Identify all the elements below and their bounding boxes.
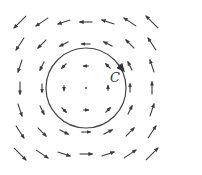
field-arrow: [58, 152, 71, 156]
field-arrow: [126, 128, 135, 137]
field-arrow: [148, 126, 156, 138]
field-arrow: [18, 104, 22, 117]
field-arrow: [102, 152, 115, 156]
field-arrow: [62, 108, 67, 113]
field-arrow: [40, 106, 44, 115]
vector-field-diagram: C: [0, 0, 202, 175]
field-arrow: [36, 150, 48, 158]
field-arrow: [36, 18, 48, 26]
field-arrow: [102, 20, 115, 24]
field-point: [85, 87, 87, 89]
field-arrow: [124, 150, 136, 158]
field-arrow: [150, 104, 154, 117]
field-arrow: [128, 106, 132, 115]
field-arrow: [124, 18, 136, 26]
field-arrow: [150, 60, 154, 73]
field-arrow: [146, 148, 158, 160]
field-arrow: [104, 42, 113, 46]
field-arrow: [104, 130, 113, 134]
field-arrow: [16, 38, 24, 50]
field-arrows: [14, 16, 158, 160]
field-arrow: [146, 16, 158, 28]
curve-label: C: [110, 70, 120, 85]
field-arrow: [38, 40, 47, 49]
field-arrow: [106, 64, 111, 69]
field-arrow: [128, 62, 132, 71]
field-arrow: [126, 40, 135, 49]
field-arrow: [16, 126, 24, 138]
field-arrow: [18, 60, 22, 73]
field-arrow: [148, 38, 156, 50]
field-arrow: [58, 20, 71, 24]
field-arrow: [60, 130, 69, 134]
field-arrow: [106, 108, 111, 113]
field-arrow: [14, 16, 26, 28]
field-arrow: [38, 128, 47, 137]
field-arrow: [40, 62, 44, 71]
field-arrow: [60, 42, 69, 46]
field-arrow: [62, 64, 67, 69]
field-arrow: [14, 148, 26, 160]
